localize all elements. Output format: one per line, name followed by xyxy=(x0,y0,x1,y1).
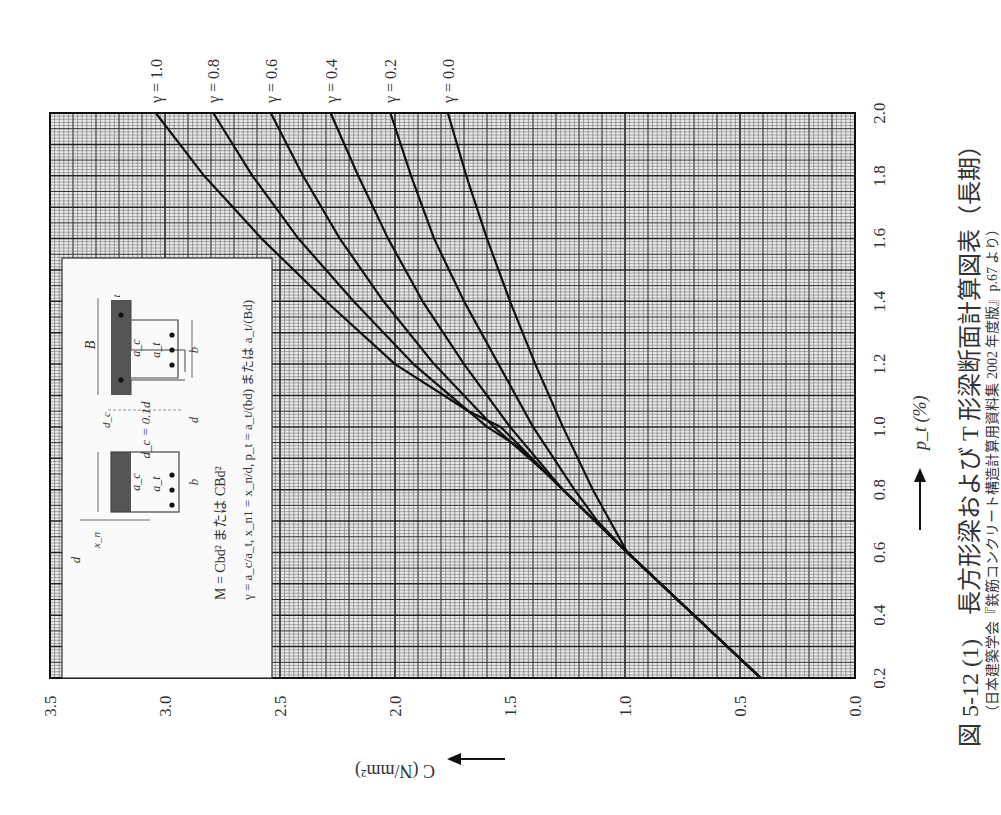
label-B: B xyxy=(83,340,98,349)
label-at-2: a_t xyxy=(149,476,163,492)
pt-tick-label: 1.2 xyxy=(870,353,889,374)
c-tick-label: 3.5 xyxy=(41,695,60,716)
svg-text:p_t (%): p_t (%) xyxy=(910,396,931,452)
pt-tick-label: 0.8 xyxy=(870,479,889,500)
label-b: b xyxy=(186,346,201,353)
curve-label: γ = 0.6 xyxy=(263,59,281,104)
pt-tick-label: 1.4 xyxy=(870,290,889,312)
pt-tick-label: 0.2 xyxy=(870,667,889,688)
rebar-dot xyxy=(169,332,174,337)
label-ac: a_c xyxy=(129,339,143,357)
svg-text:C (N/mm²): C (N/mm²) xyxy=(355,760,435,781)
rect-beam-compression xyxy=(111,452,131,512)
rebar-dot xyxy=(169,487,174,492)
label-dc-note: d_c = 0.1d xyxy=(138,401,153,458)
curve-label: γ = 0.8 xyxy=(205,59,223,104)
c-tick-label: 1.0 xyxy=(616,695,635,716)
c-tick-label: 2.0 xyxy=(386,695,405,716)
c-tick-label: 3.0 xyxy=(156,695,175,716)
rebar-dot xyxy=(169,347,174,352)
pt-tick-label: 0.6 xyxy=(870,542,889,563)
curve-label: γ = 0.2 xyxy=(382,59,400,104)
figure-source-text: （日本建築学会『鉄筋コンクリート構造計算用資料集 2002 年度版』p.67 よ… xyxy=(984,222,1000,719)
curve-label: γ = 0.0 xyxy=(440,59,458,104)
label-ac-2: a_c xyxy=(129,473,143,491)
label-xn: x_n xyxy=(90,532,102,549)
inset-formula-1: M = Cbd² または CBd² xyxy=(213,466,228,600)
arrow-icon xyxy=(447,753,461,765)
label-d-2: d xyxy=(68,556,83,563)
label-at: a_t xyxy=(149,342,163,358)
c-axis-title: C (N/mm²) xyxy=(355,753,505,781)
pt-tick-label: 0.4 xyxy=(870,604,889,626)
rebar-dot xyxy=(118,377,123,382)
rebar-dot xyxy=(118,312,123,317)
arrow-icon xyxy=(914,468,926,482)
label-d: d xyxy=(187,416,201,423)
pt-tick-label: 1.8 xyxy=(870,165,889,186)
chart-figure: Bta_ca_tbd_c = 0.1ddd_ca_ca_tbx_ndM = Cb… xyxy=(0,0,1001,815)
c-tick-label: 0.5 xyxy=(731,695,750,716)
cross-section-inset: Bta_ca_tbd_c = 0.1ddd_ca_ca_tbx_ndM = Cb… xyxy=(62,258,272,678)
inset-formula-2: γ = a_c/a_t, x_n1 = x_n/d, p_t = a_t/(bd… xyxy=(240,300,255,601)
label-b-2: b xyxy=(186,478,201,485)
pt-tick-label: 1.6 xyxy=(870,228,889,249)
pt-tick-label: 2.0 xyxy=(870,102,889,123)
pt-axis-title: p_t (%) xyxy=(910,396,931,530)
rebar-dot xyxy=(169,502,174,507)
pt-tick-label: 1.0 xyxy=(870,416,889,437)
c-tick-label: 0.0 xyxy=(846,695,865,716)
curve-label: γ = 0.4 xyxy=(323,59,341,104)
figure-title-text: 図 5-12 (1) 長方形梁および T 形梁断面計算図表（長期） xyxy=(957,133,983,747)
label-dc: d_c xyxy=(100,412,112,428)
curve-label: γ = 1.0 xyxy=(148,59,166,104)
c-tick-label: 2.5 xyxy=(271,695,290,716)
rebar-dot xyxy=(169,472,174,477)
rotated-chart-svg: Bta_ca_tbd_c = 0.1ddd_ca_ca_tbx_ndM = Cb… xyxy=(0,0,1001,815)
c-tick-label: 1.5 xyxy=(501,695,520,716)
rebar-dot xyxy=(169,362,174,367)
